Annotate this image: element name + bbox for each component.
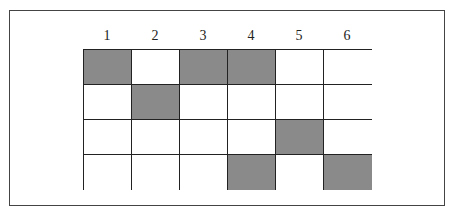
column-label-1: 1 xyxy=(83,28,131,46)
grid-cell-empty xyxy=(276,85,324,120)
grid-cell-empty xyxy=(228,85,276,120)
grid-cell-empty xyxy=(180,85,228,120)
grid-cell-empty xyxy=(324,120,372,155)
grid-cell-empty xyxy=(324,85,372,120)
grid-cell-filled xyxy=(180,50,228,85)
grid-cell-empty xyxy=(132,50,180,85)
grid-cell-empty xyxy=(132,120,180,155)
grid-cell-empty xyxy=(180,120,228,155)
column-label-6: 6 xyxy=(323,28,371,46)
grid-cell-filled xyxy=(84,50,132,85)
grid-cell-empty xyxy=(276,155,324,190)
grid-cell-empty xyxy=(324,50,372,85)
grid-cell-empty xyxy=(84,120,132,155)
grid-cell-filled xyxy=(276,120,324,155)
cell-grid xyxy=(83,49,372,190)
column-label-2: 2 xyxy=(131,28,179,46)
column-label-3: 3 xyxy=(179,28,227,46)
grid-cell-empty xyxy=(84,155,132,190)
grid-cell-empty xyxy=(132,155,180,190)
grid-cell-empty xyxy=(180,155,228,190)
grid-cell-filled xyxy=(228,50,276,85)
grid-cell-empty xyxy=(228,120,276,155)
grid-cell-filled xyxy=(132,85,180,120)
column-labels: 1 2 3 4 5 6 xyxy=(83,28,371,46)
grid-cell-empty xyxy=(84,85,132,120)
column-label-4: 4 xyxy=(227,28,275,46)
column-label-5: 5 xyxy=(275,28,323,46)
grid-cell-filled xyxy=(324,155,372,190)
grid-cell-empty xyxy=(276,50,324,85)
grid-cell-filled xyxy=(228,155,276,190)
